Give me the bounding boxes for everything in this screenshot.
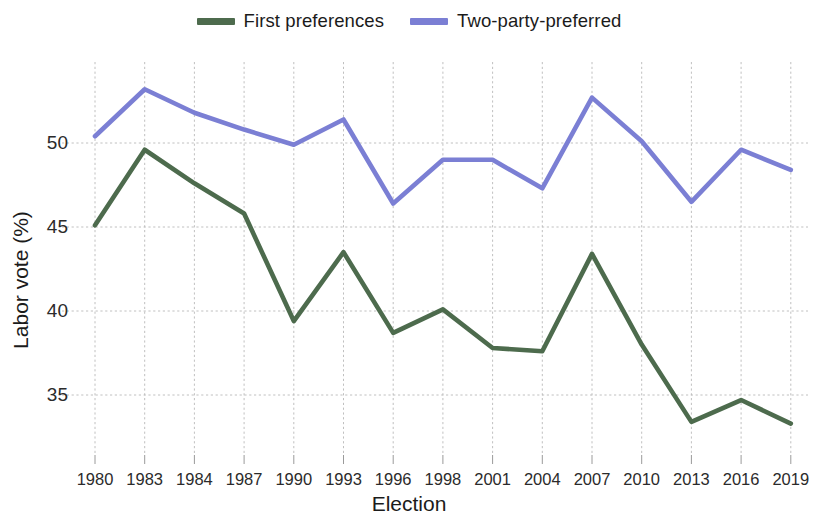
x-axis-tick-label: 1984 <box>176 470 213 489</box>
axis-ticks <box>95 455 791 464</box>
gridlines <box>62 62 808 455</box>
x-axis-tick-label: 1998 <box>425 470 462 489</box>
x-axis-tick-label: 2013 <box>673 470 710 489</box>
x-axis-tick-label: 1987 <box>226 470 263 489</box>
x-axis-tick-label: 2001 <box>474 470 511 489</box>
x-axis-tick-label: 2016 <box>723 470 760 489</box>
y-axis-title: Labor vote (%) <box>9 165 33 395</box>
x-axis-tick-label: 2007 <box>574 470 611 489</box>
x-axis-tick-label: 1983 <box>126 470 163 489</box>
x-axis-tick-label: 1990 <box>275 470 312 489</box>
x-axis-tick-label: 1993 <box>325 470 362 489</box>
x-axis-tick-label: 2004 <box>524 470 561 489</box>
series-line-first-preferences <box>95 150 791 424</box>
x-axis-title: Election <box>0 492 818 516</box>
x-axis-tick-label: 2010 <box>623 470 660 489</box>
x-axis-tick-label: 2019 <box>772 470 809 489</box>
x-axis-tick-label: 1980 <box>77 470 114 489</box>
chart-container: First preferences Two-party-preferred 35… <box>0 0 818 519</box>
y-axis-tick-label: 50 <box>22 132 68 154</box>
plot-svg <box>0 0 818 519</box>
plot-area: 35404550 1980198319841987199019931996199… <box>0 0 818 519</box>
x-axis-tick-label: 1996 <box>375 470 412 489</box>
